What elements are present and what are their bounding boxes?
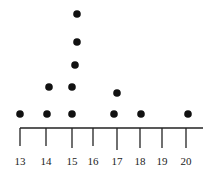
data-dot (16, 110, 24, 118)
data-dot (68, 83, 76, 91)
x-tick-label: 19 (157, 155, 169, 167)
data-dot (71, 61, 79, 69)
data-dot (68, 110, 76, 118)
data-dot (184, 110, 192, 118)
data-dot (113, 89, 121, 97)
data-dot (45, 83, 53, 91)
x-tick-label: 18 (135, 155, 147, 167)
data-dot (110, 110, 118, 118)
x-tick-label: 15 (67, 155, 79, 167)
x-tick-label: 14 (41, 155, 53, 167)
x-axis-ticks (20, 128, 186, 150)
x-tick-label: 13 (15, 155, 27, 167)
data-dot (137, 110, 145, 118)
dot-plot-svg: 1314151617181920 (0, 0, 213, 176)
dot-plot: 1314151617181920 (0, 0, 213, 176)
data-dots (16, 10, 192, 118)
x-tick-label: 20 (181, 155, 193, 167)
x-axis-tick-labels: 1314151617181920 (15, 155, 193, 167)
data-dot (43, 110, 51, 118)
data-dot (73, 10, 81, 18)
x-tick-label: 17 (112, 155, 124, 167)
x-tick-label: 16 (88, 155, 100, 167)
data-dot (73, 38, 81, 46)
